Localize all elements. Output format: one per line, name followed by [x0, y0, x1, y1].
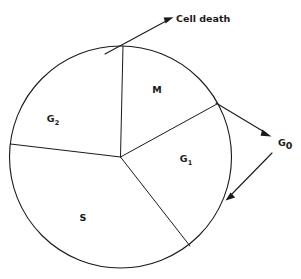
cell-cycle-diagram: M G1 S G2 Cell death G0: [0, 0, 301, 279]
sector-label-s: S: [80, 212, 87, 223]
g0-reentry-arrow: [226, 153, 273, 201]
sector-label-m: M: [152, 84, 161, 95]
g0-reentry-arrow-head: [226, 192, 236, 200]
annotation-label-cell-death: Cell death: [176, 13, 230, 24]
annotation-label-g0: G0: [278, 137, 293, 151]
g0-reentry-arrow-shaft: [230, 153, 272, 196]
cell-death-arrow-head: [164, 17, 174, 23]
g0-exit-arrow-head: [261, 130, 272, 137]
cell-cycle-canvas: M G1 S G2 Cell death G0: [0, 0, 301, 279]
